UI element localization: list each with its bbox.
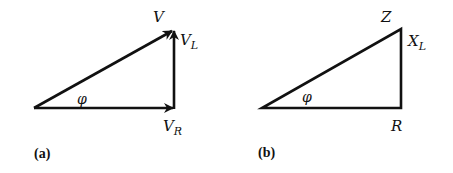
xl-label: XL (407, 32, 426, 53)
z-label: Z (380, 8, 392, 26)
v-label: V (153, 8, 166, 26)
r-label: R (390, 117, 402, 135)
caption-b: (b) (258, 145, 275, 161)
vl-label: VL (180, 31, 198, 52)
vr-label: VR (163, 117, 182, 138)
caption-a: (a) (34, 146, 51, 162)
phi-angle-label-b: φ (302, 89, 312, 105)
impedance-triangle-diagram: Z XL R φ (b) (258, 8, 426, 161)
voltage-phasor-diagram: V VL VR φ (a) (34, 8, 198, 162)
impedance-triangle (262, 29, 401, 108)
v-phasor-arrow (34, 31, 172, 108)
phasor-diagrams: V VL VR φ (a) Z XL R φ (b) (0, 0, 453, 173)
phi-angle-label-a: φ (77, 91, 87, 107)
